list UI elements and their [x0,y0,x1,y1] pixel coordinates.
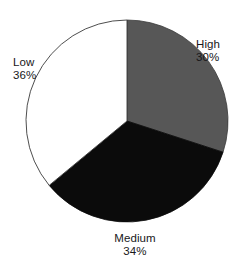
pie-label-medium-value: 34% [85,245,185,258]
pie-label-high-name: High [196,38,220,51]
pie-label-medium-name: Medium [85,232,185,245]
pie-label-high-value: 30% [196,51,220,64]
pie-label-low: Low 36% [13,56,36,82]
pie-label-medium: Medium 34% [85,232,185,258]
pie-chart: High 30% Low 36% Medium 34% [0,0,246,266]
pie-label-low-name: Low [13,56,36,69]
pie-label-low-value: 36% [13,69,36,82]
pie-label-high: High 30% [196,38,220,64]
